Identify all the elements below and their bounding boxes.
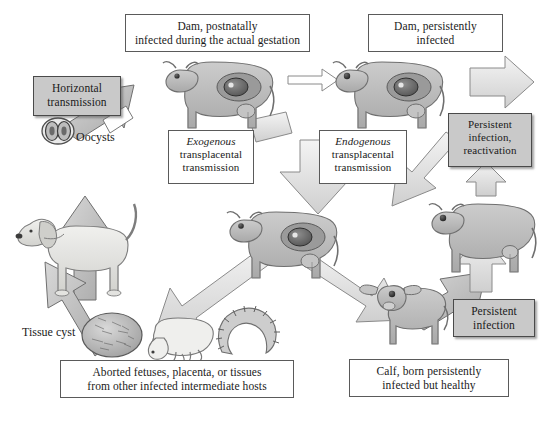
label-line: infected during the actual gestation	[131, 34, 304, 48]
label-line: Horizontal	[39, 82, 115, 96]
cow-pregnant-persistently-infected	[333, 62, 444, 128]
label-line: Dam, persistently	[374, 20, 497, 34]
label-line: transmission	[174, 161, 248, 174]
label-line: infection,	[454, 131, 526, 144]
label-line-emphasis: Exogenous	[174, 135, 248, 148]
label-endogenous-transplacental-transmission: Endogenous transplacental transmission	[319, 130, 407, 184]
label-calf-born-persistently-infected: Calf, born persistently infected but hea…	[349, 359, 509, 397]
arrow-right-cow-to-reactivation	[466, 162, 506, 196]
label-aborted-fetuses-placenta-tissues: Aborted fetuses, placenta, or tissues fr…	[60, 360, 294, 398]
label-line: from other infected intermediate hosts	[66, 380, 288, 394]
label-line: reactivation	[454, 144, 526, 157]
label-dam-postnatally-infected: Dam, postnatally infected during the act…	[125, 14, 310, 52]
placenta-figure	[216, 306, 280, 354]
oocyst-pair	[42, 118, 74, 144]
arrow-dam-to-dam-persistent	[288, 69, 338, 91]
arrow-dam-persistent-to-reactivation	[470, 56, 534, 108]
label-line: transplacental	[174, 148, 248, 161]
label-line: infected	[374, 34, 497, 48]
tissue-cyst-figure	[82, 313, 142, 357]
label-persistent-infection: Persistent infection	[453, 299, 535, 337]
label-tissue-cyst: Tissue cyst	[22, 325, 75, 340]
label-horizontal-transmission: Horizontal transmission	[33, 76, 121, 116]
label-dam-persistently-infected: Dam, persistently infected	[368, 14, 503, 52]
label-line: Calf, born persistently	[355, 365, 503, 379]
label-line: infection	[459, 319, 529, 333]
label-line: transmission	[39, 96, 115, 110]
label-persistent-infection-reactivation: Persistent infection, reactivation	[448, 113, 532, 167]
label-line: transmission	[325, 161, 401, 174]
diagram-canvas: Dam, postnatally infected during the act…	[0, 0, 558, 421]
aborted-fetus-figure	[148, 318, 213, 366]
label-line: Dam, postnatally	[131, 20, 304, 34]
label-line: infected but healthy	[355, 379, 503, 393]
label-exogenous-transplacental-transmission: Exogenous transplacental transmission	[168, 130, 254, 184]
label-line: Persistent	[454, 118, 526, 131]
label-line-emphasis: Endogenous	[325, 135, 401, 148]
label-line: Persistent	[459, 305, 529, 319]
label-oocysts: Oocysts	[76, 130, 115, 145]
label-line: transplacental	[325, 148, 401, 161]
diagram-graphics	[0, 0, 558, 421]
label-line: Aborted fetuses, placenta, or tissues	[66, 366, 288, 380]
